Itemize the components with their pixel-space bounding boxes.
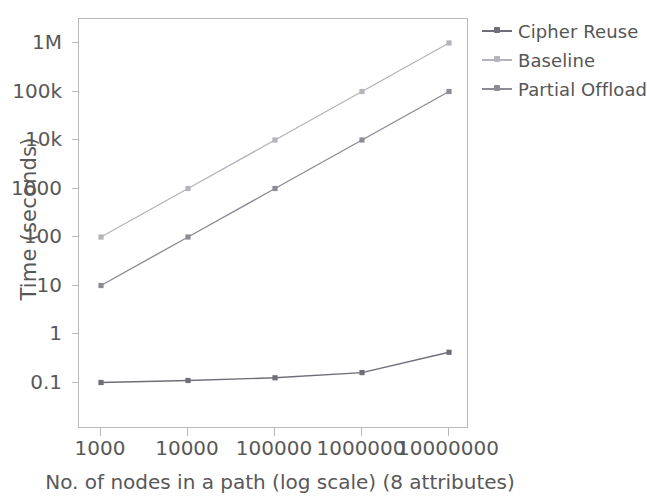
y-tick-label: 10 (0, 273, 62, 297)
legend-item-baseline[interactable]: Baseline (482, 47, 644, 73)
y-tick-label: 10k (0, 127, 62, 151)
x-tick-mark (361, 428, 362, 436)
x-tick-label: 10000000 (397, 436, 499, 460)
y-tick-label: 0.1 (0, 370, 62, 394)
data-point-marker (185, 234, 190, 239)
data-point-marker (272, 375, 277, 380)
y-tick-label: 1 (0, 321, 62, 345)
x-tick-label: 10000 (155, 436, 219, 460)
legend-marker-icon (494, 85, 500, 91)
legend-marker-icon (494, 56, 500, 62)
data-point-marker (359, 89, 364, 94)
x-axis-title: No. of nodes in a path (log scale) (8 at… (0, 470, 560, 494)
data-point-marker (98, 380, 103, 385)
series-cipher-reuse (98, 350, 451, 385)
y-tick-label: 100k (0, 79, 62, 103)
data-point-marker (98, 234, 103, 239)
x-tick-mark (448, 428, 449, 436)
x-tick-mark (274, 428, 275, 436)
series-baseline (98, 40, 451, 239)
data-point-marker (446, 350, 451, 355)
legend-label: Baseline (518, 50, 595, 71)
legend-marker-icon (494, 27, 500, 33)
plot-area (78, 18, 468, 428)
data-point-marker (272, 137, 277, 142)
series-partial-offload (98, 89, 451, 288)
data-point-marker (185, 378, 190, 383)
x-tick-mark (100, 428, 101, 436)
data-point-marker (446, 89, 451, 94)
data-point-marker (185, 186, 190, 191)
legend-key-icon (482, 83, 512, 95)
data-point-marker (359, 137, 364, 142)
data-point-marker (359, 370, 364, 375)
x-tick-mark (187, 428, 188, 436)
y-tick-label: 1000 (0, 176, 62, 200)
x-tick-label: 1000000 (316, 436, 405, 460)
legend-label: Partial Offload (518, 79, 647, 100)
x-tick-label: 100000 (236, 436, 312, 460)
plot-series-svg (79, 19, 469, 429)
chart-legend: Cipher ReuseBaselinePartial Offload (482, 18, 644, 105)
y-tick-label: 1M (0, 30, 62, 54)
legend-item-cipher-reuse[interactable]: Cipher Reuse (482, 18, 644, 44)
legend-label: Cipher Reuse (518, 21, 638, 42)
data-point-marker (98, 283, 103, 288)
legend-key-icon (482, 54, 512, 66)
y-tick-label: 100 (0, 224, 62, 248)
data-point-marker (272, 186, 277, 191)
legend-item-partial-offload[interactable]: Partial Offload (482, 76, 644, 102)
x-tick-label: 1000 (75, 436, 126, 460)
data-point-marker (446, 40, 451, 45)
legend-key-icon (482, 25, 512, 37)
